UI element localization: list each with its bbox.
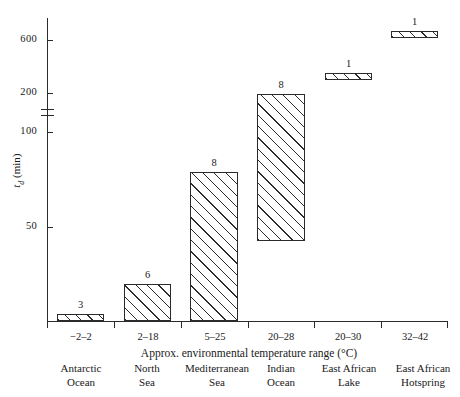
x-category-east-african-hotspring-line2: Hotspring xyxy=(383,376,460,390)
x-tick-5 xyxy=(381,321,382,328)
bar-label-east-african-hotspring: 1 xyxy=(391,16,438,27)
x-range-label-east-african-hotspring: 32–42 xyxy=(386,331,444,342)
bar-label-east-african-lake: 1 xyxy=(325,58,372,69)
x-category-mediterranean-sea: Mediterranean Sea xyxy=(172,362,262,389)
x-category-east-african-lake-line2: Lake xyxy=(310,376,388,390)
x-tick-0 xyxy=(47,321,48,328)
y-tick-label-200-wrap: 200 xyxy=(0,86,42,97)
y-axis-break-upper xyxy=(41,109,54,110)
x-tick-3 xyxy=(248,321,249,328)
bar-north-sea xyxy=(124,284,171,321)
x-category-mediterranean-sea-line1: Mediterranean xyxy=(172,362,262,376)
x-category-indian-ocean: Indian Ocean xyxy=(250,362,312,389)
x-category-antarctic-ocean-line1: Antarctic xyxy=(46,362,116,376)
x-category-indian-ocean-line1: Indian xyxy=(250,362,312,376)
y-tick-label-600-wrap: 600 xyxy=(0,33,42,44)
x-range-label-north-sea: 2–18 xyxy=(119,331,177,342)
y-axis-title-subscript: d xyxy=(17,181,26,185)
x-category-mediterranean-sea-line2: Sea xyxy=(172,376,262,390)
x-category-north-sea-line1: North xyxy=(116,362,178,376)
bar-label-antarctic-ocean: 3 xyxy=(57,299,104,310)
y-tick-100 xyxy=(47,132,53,133)
y-tick-label-200: 200 xyxy=(0,86,42,97)
y-axis-break-lower xyxy=(41,115,54,116)
x-axis-title: Approx. environmental temperature range … xyxy=(84,347,414,359)
chart-container: 600 200 100 50 td (min) 3 6 8 8 1 1 −2–2… xyxy=(0,0,460,397)
x-category-antarctic-ocean-line2: Ocean xyxy=(46,376,116,390)
x-tick-4 xyxy=(314,321,315,328)
x-range-label-indian-ocean: 20–28 xyxy=(252,331,310,342)
x-range-label-mediterranean-sea: 5–25 xyxy=(186,331,244,342)
y-axis-title-symbol: t xyxy=(10,185,22,188)
y-axis-title-units: (min) xyxy=(10,153,22,180)
x-category-east-african-hotspring-line1: East African xyxy=(383,362,460,376)
y-tick-label-600: 600 xyxy=(0,33,42,44)
x-category-antarctic-ocean: Antarctic Ocean xyxy=(46,362,116,389)
x-category-north-sea: North Sea xyxy=(116,362,178,389)
bar-indian-ocean xyxy=(257,94,305,241)
y-tick-600 xyxy=(47,40,53,41)
bar-antarctic-ocean xyxy=(57,314,104,321)
y-axis-line xyxy=(47,18,48,322)
bar-label-north-sea: 6 xyxy=(124,269,171,280)
y-axis-title: td (min) xyxy=(10,116,25,226)
bar-label-mediterranean-sea: 8 xyxy=(190,157,238,168)
x-category-east-african-lake-line1: East African xyxy=(310,362,388,376)
x-category-east-african-hotspring: East African Hotspring xyxy=(383,362,460,389)
x-tick-6 xyxy=(447,321,448,328)
bar-east-african-hotspring xyxy=(391,31,438,38)
y-tick-200 xyxy=(47,93,53,94)
y-tick-50 xyxy=(47,227,53,228)
x-tick-2 xyxy=(181,321,182,328)
bar-east-african-lake xyxy=(325,73,372,80)
x-category-east-african-lake: East African Lake xyxy=(310,362,388,389)
x-range-label-antarctic-ocean: −2–2 xyxy=(52,331,110,342)
bar-label-indian-ocean: 8 xyxy=(257,79,305,90)
x-category-indian-ocean-line2: Ocean xyxy=(250,376,312,390)
x-category-north-sea-line2: Sea xyxy=(116,376,178,390)
x-tick-1 xyxy=(114,321,115,328)
bar-mediterranean-sea xyxy=(190,172,238,321)
x-range-label-east-african-lake: 20–30 xyxy=(319,331,377,342)
